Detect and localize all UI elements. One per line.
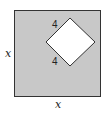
label-lower-side: 4 (52, 56, 58, 67)
label-left-x: x (5, 47, 12, 60)
diagram-canvas: 4 4 x x (0, 0, 109, 114)
label-bottom-x: x (55, 98, 62, 111)
label-upper-side: 4 (52, 19, 58, 30)
